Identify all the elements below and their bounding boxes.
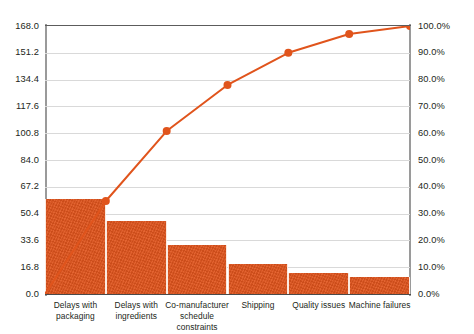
category-label: Shipping — [224, 300, 293, 311]
category-label: Delays with ingredients — [102, 300, 171, 322]
left-axis-labels: 0.016.833.650.467.284.0100.8117.6134.415… — [0, 0, 39, 334]
right-axis-tick-label: 40.0% — [418, 182, 445, 191]
left-axis-tick-label: 33.6 — [21, 236, 40, 245]
bar-series — [45, 26, 410, 294]
left-axis-tick-label: 134.4 — [15, 75, 39, 84]
right-axis-tick-label: 30.0% — [418, 209, 445, 218]
left-axis-tick-label: 16.8 — [21, 263, 40, 272]
left-axis-tick-label: 100.8 — [15, 129, 39, 138]
right-axis-tick-label: 80.0% — [418, 75, 445, 84]
category-label: Quality issues — [284, 300, 353, 311]
bar — [167, 245, 228, 294]
left-axis-tick-label: 67.2 — [21, 182, 40, 191]
right-axis-tick-label: 100.0% — [418, 22, 450, 31]
right-axis-tick-label: 20.0% — [418, 236, 445, 245]
right-axis-labels: 0.0%10.0%20.0%30.0%40.0%50.0%60.0%70.0%8… — [418, 0, 474, 334]
right-axis-tick-label: 90.0% — [418, 48, 445, 57]
bar — [106, 221, 167, 294]
category-label: Delays with packaging — [41, 300, 110, 322]
plot-area — [45, 26, 410, 294]
bar — [349, 277, 410, 294]
left-axis-tick-label: 0.0 — [26, 290, 39, 299]
bar — [288, 273, 349, 294]
bar — [228, 264, 289, 294]
category-label: Machine failures — [345, 300, 414, 311]
pareto-chart: 0.016.833.650.467.284.0100.8117.6134.415… — [0, 0, 474, 334]
left-axis-tick-label: 84.0 — [21, 156, 40, 165]
left-axis-tick-label: 168.0 — [15, 22, 39, 31]
right-axis-tick-label: 0.0% — [418, 290, 440, 299]
right-axis-tick-label: 60.0% — [418, 129, 445, 138]
right-axis-tick-label: 10.0% — [418, 263, 445, 272]
left-axis-tick-label: 117.6 — [16, 102, 39, 111]
bar — [45, 199, 106, 294]
left-axis-tick-label: 151.2 — [15, 48, 39, 57]
category-axis-labels: Delays with packagingDelays with ingredi… — [45, 300, 410, 334]
left-axis-tick-label: 50.4 — [21, 209, 40, 218]
right-axis-tick-label: 50.0% — [418, 156, 445, 165]
category-label: Co-manufacturer schedule constraints — [163, 300, 232, 334]
right-axis-tick-label: 70.0% — [418, 102, 445, 111]
